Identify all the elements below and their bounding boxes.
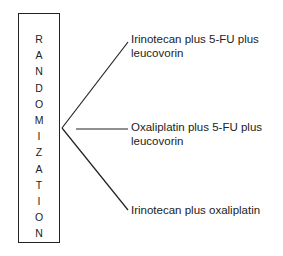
- arm-2-line2: leucovorin: [131, 134, 262, 148]
- arm-1-label: Irinotecan plus 5-FU plus leucovorin: [131, 32, 259, 60]
- arm-3-label: Irinotecan plus oxaliplatin: [131, 203, 260, 217]
- arm-1-line1: Irinotecan plus 5-FU plus: [131, 32, 259, 46]
- arm-2-label: Oxaliplatin plus 5-FU plus leucovorin: [131, 120, 262, 148]
- arm-1-line2: leucovorin: [131, 46, 259, 60]
- arm-3-line1: Irinotecan plus oxaliplatin: [131, 203, 260, 217]
- arm-2-line1: Oxaliplatin plus 5-FU plus: [131, 120, 262, 134]
